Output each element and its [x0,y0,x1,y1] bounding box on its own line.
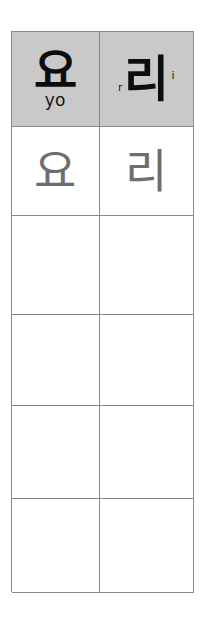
practice-cell-right[interactable] [100,499,194,593]
practice-cell-left[interactable] [12,216,100,315]
practice-cell-left-inner [12,499,99,592]
header-romanization-yo: yo [45,92,66,109]
trace-cell-yo[interactable]: 요 [12,127,100,216]
trace-cell-yo-inner: 요 [12,127,99,215]
practice-cell-left[interactable] [12,315,100,406]
table-blank-row [12,406,194,499]
practice-cell-right-inner [100,315,193,405]
practice-cell-left-inner [12,406,99,498]
table-blank-row [12,315,194,406]
trace-cell-ri-inner: 리 [100,127,193,215]
table-blank-row [12,216,194,315]
practice-cell-left[interactable] [12,499,100,593]
practice-cell-right[interactable] [100,315,194,406]
table-trace-row: 요 리 [12,127,194,216]
header-cell-ri-inner: r 리 i [100,32,193,126]
header-cell-yo-inner: 요 yo [12,32,99,126]
header-cell-yo: 요 yo [12,32,100,127]
header-glyph-yo: 요 [34,49,77,94]
glyph-stack-ri: r 리 i [118,55,175,104]
header-superscript-r: r [118,81,123,94]
practice-cell-left-inner [12,315,99,405]
table-blank-row [12,499,194,593]
practice-cell-left-inner [12,216,99,314]
practice-cell-right-inner [100,216,193,314]
handwriting-practice-table: 요 yo r 리 i 요 리 [11,31,194,592]
trace-cell-ri[interactable]: 리 [100,127,194,216]
header-subscript-i: i [171,69,174,82]
trace-glyph-yo: 요 [34,148,76,194]
trace-glyph-ri: 리 [125,148,167,194]
practice-cell-right[interactable] [100,216,194,315]
practice-cell-right[interactable] [100,406,194,499]
header-glyph-ri: 리 [124,55,169,104]
practice-cell-right-inner [100,499,193,592]
glyph-stack-yo: 요 yo [34,49,77,109]
table-header-row: 요 yo r 리 i [12,32,194,127]
header-cell-ri: r 리 i [100,32,194,127]
practice-cell-left[interactable] [12,406,100,499]
practice-cell-right-inner [100,406,193,498]
